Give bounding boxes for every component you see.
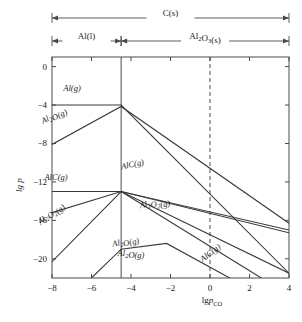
- xtick-label-6: 4: [287, 283, 292, 293]
- curve-AlC(g)-lower: [52, 192, 289, 233]
- curves-group: [52, 105, 289, 278]
- chart-root: −8−6−4−20240−4−8−12−16−20lg plgpCOC(s)Al…: [0, 0, 302, 322]
- xtick-label-3: −2: [166, 283, 176, 293]
- xtick-label-0: −8: [47, 283, 57, 293]
- ytick-label-2: −8: [37, 138, 47, 148]
- x-axis-title: lgpCO: [202, 295, 223, 307]
- xtick-label-4: 0: [208, 283, 213, 293]
- plot-frame: [52, 57, 289, 278]
- span-arrowhead-0-1: [283, 16, 289, 21]
- span-arrowhead-2-0: [121, 39, 127, 44]
- xtick-label-5: 2: [247, 283, 252, 293]
- y-axis-title: lg p: [14, 178, 24, 192]
- span-arrowhead-0-0: [52, 16, 58, 21]
- curve-label-3: AlC(g): [119, 157, 145, 172]
- curve-Al(g): [52, 105, 289, 273]
- curve-label-0: Al(g): [62, 83, 81, 93]
- span-label-1: Al(l): [78, 31, 96, 41]
- curve-label-2: AlC(g): [43, 172, 67, 182]
- ytick-label-5: −20: [33, 254, 48, 264]
- span-label-0: C(s): [163, 8, 179, 18]
- curve-label-4: Al2O2(g): [35, 199, 68, 230]
- span-arrowhead-1-1: [115, 39, 121, 44]
- xtick-label-2: −4: [126, 283, 136, 293]
- span-arrowhead-2-1: [283, 39, 289, 44]
- predominance-diagram: −8−6−4−20240−4−8−12−16−20lg plgpCOC(s)Al…: [0, 0, 302, 322]
- ytick-label-0: 0: [43, 62, 48, 72]
- ytick-label-1: −4: [37, 100, 47, 110]
- xtick-label-1: −6: [87, 283, 97, 293]
- span-arrowhead-1-0: [52, 39, 58, 44]
